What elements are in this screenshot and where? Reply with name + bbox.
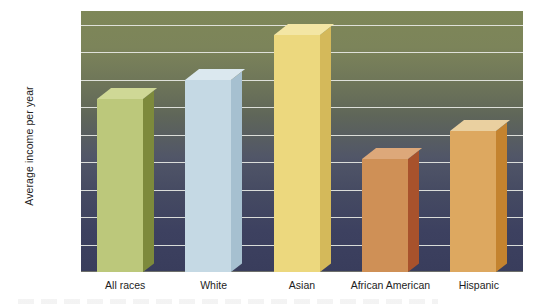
plot-area (81, 11, 523, 272)
bar-hispanic (450, 131, 496, 272)
bar-front-face (185, 80, 231, 272)
bar-side-face (496, 122, 507, 272)
bar-side-face (143, 90, 154, 272)
bar-side-face (320, 26, 331, 272)
bar-side-face (231, 71, 242, 272)
bar-front-face (274, 35, 320, 272)
bar-all-races (97, 99, 143, 272)
x-axis-label-white: White (200, 279, 227, 291)
bar-front-face (97, 99, 143, 272)
bar-african-american (362, 159, 408, 272)
x-axis-label-all-races: All races (105, 279, 145, 291)
x-axis-label-african-american: African American (351, 279, 430, 291)
bar-side-face (408, 151, 419, 272)
bar-white (185, 80, 231, 272)
caption-partial (18, 299, 438, 304)
x-axis-label-hispanic: Hispanic (459, 279, 499, 291)
bar-front-face (450, 131, 496, 272)
bar-front-face (362, 159, 408, 272)
y-axis-title: Average income per year (23, 51, 35, 241)
x-axis-label-asian: Asian (289, 279, 315, 291)
bar-chart: Average income per year $0$10,000$20,000… (0, 0, 533, 306)
bar-asian (274, 35, 320, 272)
